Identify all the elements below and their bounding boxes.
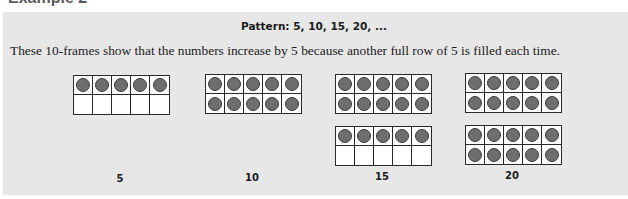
counter-dot-icon [133,78,147,92]
counter-dot-icon [506,148,520,162]
counter-dot-icon [525,96,539,110]
frame-cell [393,146,412,165]
counter-dot-icon [468,76,482,90]
counter-dot-icon [265,77,279,91]
frame-cell [244,94,263,113]
frame-cell [412,94,431,113]
ten-frame-20-bottom [465,125,562,165]
counter-dot-icon [525,76,539,90]
counter-dot-icon [545,76,559,90]
counter-dot-icon [525,148,539,162]
counter-dot-icon [338,77,352,91]
counter-dot-icon [227,77,241,91]
counter-dot-icon [545,96,559,110]
frame-cell [355,94,374,113]
counter-dot-icon [338,129,352,143]
frame-cell [485,126,504,145]
ten-frame-20-top [465,73,562,113]
frame-cell [206,75,225,94]
counter-dot-icon [357,97,371,111]
frame-cell [523,93,542,112]
frame-cell [393,94,412,113]
counter-dot-icon [246,77,260,91]
count-label-15: 15 [362,171,402,182]
frame-cell [244,75,263,94]
counter-dot-icon [506,96,520,110]
frame-cell [131,76,150,95]
frame-cell [74,95,93,114]
counter-dot-icon [487,96,501,110]
count-label-5: 5 [100,173,140,184]
frame-cell [485,74,504,93]
frame-cell [355,127,374,146]
frame-cell [263,75,282,94]
frame-cell [225,94,244,113]
frame-cell [131,95,150,114]
example-heading: Example 2 [8,0,87,7]
frame-cell [504,126,523,145]
counter-dot-icon [468,96,482,110]
counter-dot-icon [265,97,279,111]
counter-dot-icon [415,77,429,91]
frame-cell [466,145,485,164]
frame-cell [112,95,131,114]
frame-cell [225,75,244,94]
ten-frame-15-top [335,74,432,114]
counter-dot-icon [487,148,501,162]
frame-cell [355,146,374,165]
counter-dot-icon [376,129,390,143]
frame-cell [485,93,504,112]
counter-dot-icon [153,78,167,92]
frame-cell [374,127,393,146]
counter-dot-icon [376,97,390,111]
frame-cell [93,95,112,114]
counter-dot-icon [395,97,409,111]
frame-cell [412,75,431,94]
counter-dot-icon [487,128,501,142]
frame-cell [504,74,523,93]
counter-dot-icon [506,76,520,90]
frame-cell [74,76,93,95]
counter-dot-icon [246,97,260,111]
frame-cell [504,93,523,112]
frame-cell [93,76,112,95]
counter-dot-icon [357,77,371,91]
counter-dot-icon [357,129,371,143]
counter-dot-icon [415,129,429,143]
frame-cell [336,146,355,165]
frame-cell [263,94,282,113]
frame-cell [393,75,412,94]
frame-cell [393,127,412,146]
count-label-20: 20 [492,170,532,181]
frame-cell [282,75,301,94]
ten-frame-15-bottom [335,126,432,166]
pattern-title: Pattern: 5, 10, 15, 20, ... [0,20,628,32]
frame-cell [336,127,355,146]
ten-frame-10 [205,74,302,114]
counter-dot-icon [506,128,520,142]
counter-dot-icon [395,129,409,143]
count-label-10: 10 [232,172,272,183]
frame-cell [523,74,542,93]
counter-dot-icon [545,128,559,142]
frame-cell [336,75,355,94]
frame-cell [412,127,431,146]
frame-cell [206,94,225,113]
frame-cell [412,146,431,165]
counter-dot-icon [468,148,482,162]
frame-cell [374,75,393,94]
counter-dot-icon [468,128,482,142]
counter-dot-icon [395,77,409,91]
frame-cell [523,145,542,164]
frame-cell [336,94,355,113]
frame-cell [282,94,301,113]
frame-cell [485,145,504,164]
frame-cell [374,94,393,113]
counter-dot-icon [545,148,559,162]
counter-dot-icon [76,78,90,92]
counter-dot-icon [227,97,241,111]
counter-dot-icon [285,97,299,111]
counter-dot-icon [114,78,128,92]
counter-dot-icon [415,97,429,111]
pattern-description: These 10-frames show that the numbers in… [10,43,560,59]
